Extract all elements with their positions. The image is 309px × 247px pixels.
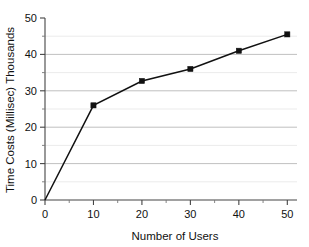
x-tick-label: 30 — [184, 208, 196, 220]
data-point-marker — [91, 103, 96, 108]
x-tick-label: 40 — [233, 208, 245, 220]
data-point-marker — [188, 66, 193, 71]
x-axis-tick-labels: 01020304050 — [42, 208, 293, 220]
y-axis-title: Time Costs (Millisec) Thousands — [4, 27, 16, 193]
y-tick-label: 30 — [25, 85, 37, 97]
y-axis-tick-labels: 01020304050 — [25, 12, 37, 206]
data-point-marker — [236, 48, 241, 53]
chart-container: 01020304050 01020304050 Number of Users … — [0, 0, 309, 247]
line-chart: 01020304050 01020304050 Number of Users … — [0, 0, 309, 247]
y-tick-label: 10 — [25, 158, 37, 170]
x-axis-title: Number of Users — [132, 230, 219, 242]
x-tick-label: 10 — [87, 208, 99, 220]
y-tick-label: 40 — [25, 48, 37, 60]
x-axis: 01020304050 — [42, 200, 297, 220]
x-tick-label: 0 — [42, 208, 48, 220]
grid-lines-minor — [45, 36, 297, 182]
x-tick-label: 50 — [281, 208, 293, 220]
y-tick-label: 0 — [31, 194, 37, 206]
y-axis: 01020304050 — [25, 12, 45, 206]
data-point-marker — [285, 32, 290, 37]
y-tick-label: 20 — [25, 121, 37, 133]
x-tick-label: 20 — [136, 208, 148, 220]
y-tick-label: 50 — [25, 12, 37, 24]
data-point-marker — [139, 78, 144, 83]
data-series — [45, 32, 290, 200]
